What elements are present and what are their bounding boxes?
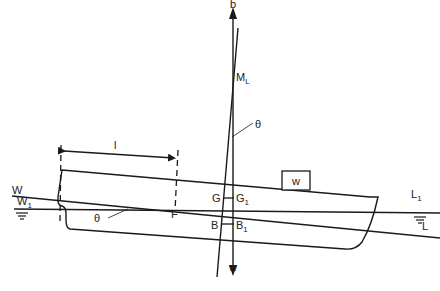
weight-label: w	[291, 175, 300, 187]
distance-label-l: l	[114, 139, 116, 151]
label-theta-bottom: θ	[94, 212, 100, 224]
waterline-w1l1	[14, 209, 440, 213]
label-l: L	[422, 220, 428, 232]
label-w-bottom: w	[228, 261, 237, 273]
label-g: G	[212, 192, 221, 204]
label-g1: G1	[236, 192, 250, 207]
trim-diagram: w l b ML θ θ G G1 B B1 F w W W1 L1 L	[0, 0, 440, 291]
inclined-line	[217, 28, 238, 277]
distance-arrow-l	[64, 151, 174, 158]
label-theta-top: θ	[255, 118, 261, 130]
label-f: F	[171, 208, 178, 220]
label-l1: L1	[411, 188, 422, 203]
theta-leader-top	[232, 123, 253, 137]
waterline-wl	[12, 196, 440, 238]
water-symbol-left	[16, 213, 28, 219]
label-ml: ML	[236, 71, 250, 86]
label-b1: B1	[236, 219, 248, 234]
label-b-buoyancy: B	[211, 219, 218, 231]
label-b: b	[230, 0, 236, 10]
